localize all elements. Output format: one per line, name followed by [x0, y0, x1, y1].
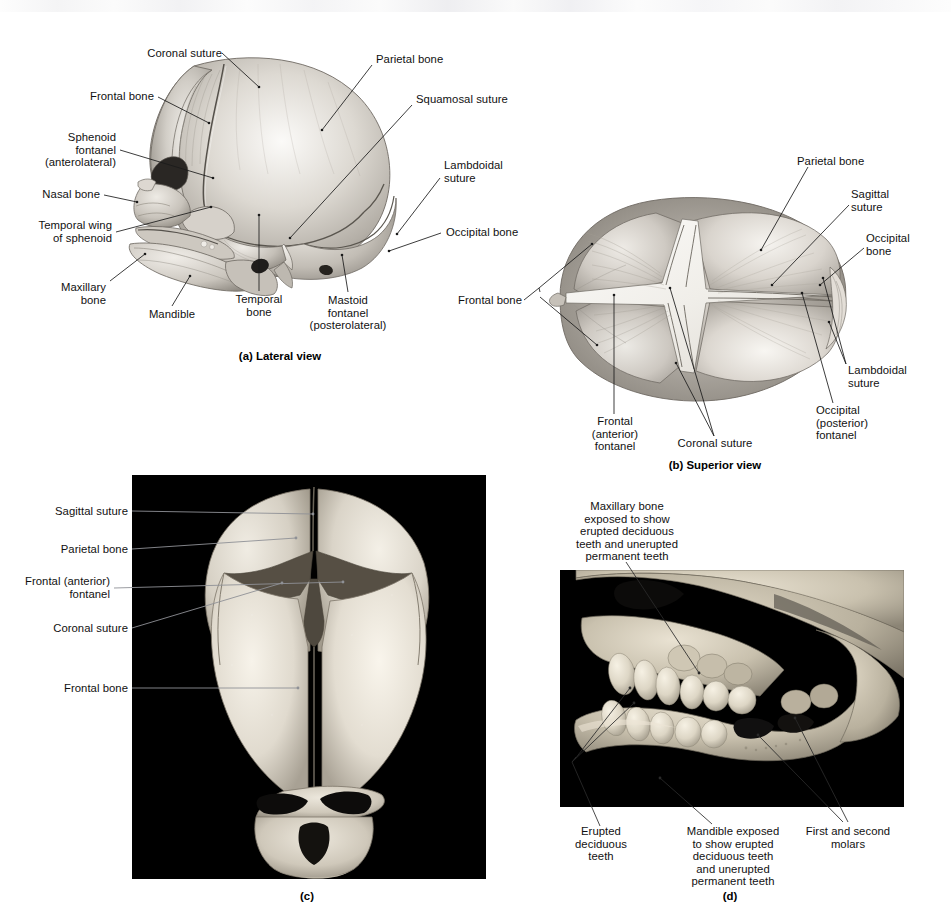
label-a-sphenoid-fontanel: Sphenoid fontanel (anterolateral) [30, 131, 116, 169]
label-a-mandible: Mandible [120, 308, 224, 321]
label-a-squamosal-suture: Squamosal suture [416, 93, 536, 106]
scan-noise-artifact [0, 0, 951, 12]
label-b-coronal-suture: Coronal suture [658, 437, 772, 450]
caption-panel-a: (a) Lateral view [200, 350, 360, 362]
label-a-frontal-bone: Frontal bone [58, 90, 154, 103]
label-d-mandible-note: Mandible exposed to show erupted deciduo… [663, 825, 803, 888]
label-a-coronal-suture: Coronal suture [112, 47, 222, 60]
label-a-parietal-bone: Parietal bone [376, 53, 486, 66]
label-d-maxillary-note: Maxillary bone exposed to show erupted d… [551, 500, 703, 563]
label-c-coronal-suture: Coronal suture [24, 622, 128, 635]
label-b-occipital-fontanel: Occipital (posterior) fontanel [816, 404, 902, 442]
label-b-lambdoidal-suture: Lambdoidal suture [848, 364, 934, 389]
label-a-occipital-bone: Occipital bone [446, 226, 546, 239]
label-c-frontal-bone: Frontal bone [32, 682, 128, 695]
panel-b-superior-skull-illustration [534, 185, 864, 410]
panel-d-jaw-photo-art [560, 570, 904, 807]
caption-panel-c: (c) [277, 890, 337, 902]
label-d-molars: First and second molars [793, 825, 903, 850]
label-a-temporal-bone: Temporal bone [222, 293, 296, 318]
label-a-lambdoidal-suture: Lambdoidal suture [444, 159, 528, 184]
label-a-temporal-wing: Temporal wing of sphenoid [14, 219, 112, 244]
label-b-sagittal-suture: Sagittal suture [851, 188, 931, 213]
label-d-erupted-deciduous: Erupted deciduous teeth [557, 825, 645, 863]
label-b-parietal-bone: Parietal bone [797, 155, 907, 168]
panel-c-skull-photo-art [132, 475, 486, 879]
label-c-sagittal-suture: Sagittal suture [22, 505, 128, 518]
label-a-mastoid-fontanel: Mastoid fontanel (posterolateral) [300, 294, 396, 332]
panel-c-photograph [132, 475, 486, 879]
label-b-frontal-fontanel: Frontal (anterior) fontanel [572, 415, 658, 453]
caption-panel-b: (b) Superior view [585, 459, 845, 471]
anatomy-figure: Coronal suture Frontal bone Sphenoid fon… [0, 0, 951, 916]
panel-d-photograph [560, 570, 904, 807]
label-b-occipital-bone: Occipital bone [866, 232, 938, 257]
label-c-frontal-fontanel: Frontal (anterior) fontanel [10, 575, 110, 600]
caption-panel-d: (d) [700, 890, 760, 902]
label-a-maxillary-bone: Maxillary bone [30, 281, 106, 306]
label-c-parietal-bone: Parietal bone [26, 543, 128, 556]
label-a-nasal-bone: Nasal bone [22, 188, 100, 201]
label-b-frontal-bone: Frontal bone [440, 294, 522, 307]
